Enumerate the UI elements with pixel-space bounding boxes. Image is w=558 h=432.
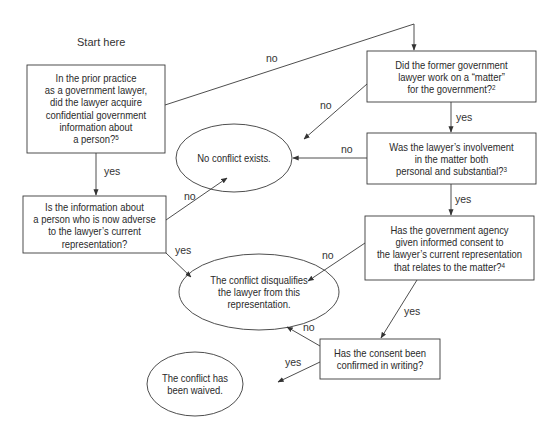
text-line: The conflict has [152,372,238,384]
text-line: given informed consent to [373,236,525,248]
node-writing-text: Has the consent been confirmed in writin… [326,347,434,371]
edge-label-writing-yes: yes [285,356,301,368]
text-line-with-footnote: for the government?2 [375,83,527,95]
text-line: did the lawyer acquire [34,96,158,108]
node-matter-text: Did the former government lawyer work on… [375,59,527,96]
text-line: as a government lawyer, [34,84,158,96]
node-waived-text: The conflict has been waived. [152,372,238,396]
edge-label-involvement-yes: yes [455,193,471,205]
node-disqualifies-text: The conflict disqualifies the lawyer fro… [187,274,331,311]
footnote-marker: 2 [492,84,496,91]
text-line: representation? [30,238,159,250]
text-line: confirmed in writing? [326,359,434,371]
footnote-marker: 3 [504,166,508,173]
text-line-with-footnote: that relates to the matter?4 [373,261,525,273]
edge-label-matter-no: no [320,99,332,111]
start-label: Start here [77,36,125,48]
text-line: to the lawyer’s current [30,225,159,237]
text-line: for the government? [407,83,492,95]
edge-label-writing-no: no [303,321,315,333]
text-line: personal and substantial? [396,165,504,177]
text-line: No conflict exists. [182,152,286,164]
edge-label-prior-yes: yes [104,165,120,177]
edge-matter-to-noconflict [304,84,367,139]
node-consent-text: Has the government agency given informed… [373,224,525,273]
footnote-marker: 5 [115,134,119,141]
text-line: in the matter both [375,153,527,165]
edge-label-adverse-yes: yes [175,244,191,256]
text-line: Has the government agency [373,224,525,236]
edge-label-adverse-no: no [184,190,196,202]
text-line: information about [34,121,158,133]
edge-label-consent-yes: yes [404,305,420,317]
edge-label-involvement-no: no [341,143,353,155]
edge-label-consent-no: no [322,249,334,261]
text-line: the lawyer’s current representation [373,248,525,260]
text-line: The conflict disqualifies [187,274,331,286]
text-line: Is the information about [30,201,159,213]
node-no-conflict-text: No conflict exists. [182,152,286,164]
node-adverse-text: Is the information about a person who is… [30,201,159,250]
text-line: Did the former government [375,59,527,71]
text-line: In the prior practice [34,72,158,84]
node-prior-practice-text: In the prior practice as a government la… [34,72,158,145]
edge-label-matter-yes: yes [456,111,472,123]
text-line: representation. [187,298,331,310]
footnote-marker: 4 [502,262,506,269]
edge-label-prior-no: no [266,52,278,64]
text-line-with-footnote: a person?5 [34,133,158,145]
text-line: a person? [73,133,115,145]
node-involvement-text: Was the lawyer’s involvement in the matt… [375,141,527,178]
text-line: a person who is now adverse [30,213,159,225]
text-line: Has the consent been [326,347,434,359]
text-line-with-footnote: personal and substantial?3 [375,165,527,177]
text-line: the lawyer from this [187,286,331,298]
text-line: Was the lawyer’s involvement [375,141,527,153]
text-line: confidential government [34,109,158,121]
text-line: that relates to the matter? [394,261,502,273]
text-line: lawyer work on a “matter” [375,71,527,83]
text-line: been waived. [152,384,238,396]
